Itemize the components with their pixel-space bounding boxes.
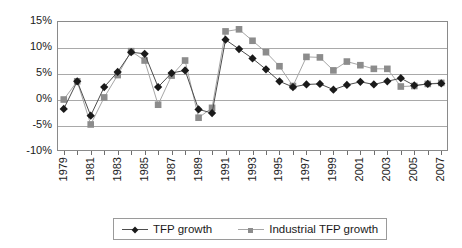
x-axis-tick [91, 151, 92, 155]
data-point [221, 36, 229, 44]
data-point [330, 67, 337, 74]
x-axis-ticks [57, 151, 448, 156]
x-axis-tick [414, 151, 415, 155]
x-axis-tick [172, 151, 173, 155]
y-axis-tick-label: 15% [0, 15, 52, 26]
x-axis-tick [118, 151, 119, 155]
square-icon [238, 224, 264, 235]
x-axis-tick [347, 151, 348, 155]
x-axis-tick-label: 1989 [193, 157, 204, 181]
x-axis-tick-label: 1987 [166, 157, 177, 181]
data-point [60, 105, 68, 113]
data-point [302, 80, 310, 88]
y-axis-tick-label: 10% [0, 41, 52, 52]
diamond-icon [122, 224, 148, 235]
data-point [249, 37, 256, 44]
data-point [182, 57, 189, 64]
x-axis-tick-label: 2003 [381, 157, 392, 181]
x-axis-tick [253, 151, 254, 155]
x-axis-tick-label: 1995 [273, 157, 284, 181]
data-point [155, 101, 162, 108]
data-point [195, 114, 202, 121]
x-axis-tick [199, 151, 200, 155]
chart-container: 15%10%5%0%-5%-10% 1979198119831985198719… [0, 0, 462, 248]
data-point [222, 28, 229, 35]
data-point [329, 86, 337, 94]
data-point [87, 121, 94, 128]
x-axis-tick [64, 151, 65, 155]
data-point [101, 94, 108, 101]
data-point [371, 66, 378, 73]
x-axis-tick-label: 1993 [247, 157, 258, 181]
data-point [316, 80, 324, 88]
data-point [384, 66, 391, 73]
data-point [141, 50, 149, 58]
x-axis-tick-label: 1985 [139, 157, 150, 181]
series-industrial-tfp-growth [60, 26, 444, 128]
x-axis-tick [145, 151, 146, 155]
data-point [263, 49, 270, 56]
legend-label: TFP growth [153, 223, 212, 235]
x-axis-tick [158, 151, 159, 155]
x-axis-tick [239, 151, 240, 155]
x-axis-tick-label: 1983 [112, 157, 123, 181]
legend-label: Industrial TFP growth [269, 223, 378, 235]
x-axis-tick [185, 151, 186, 155]
data-point [235, 45, 243, 53]
data-point [344, 58, 351, 65]
x-axis-tick [401, 151, 402, 155]
x-axis-tick [293, 151, 294, 155]
legend-entry[interactable]: Industrial TFP growth [238, 223, 378, 235]
x-axis-tick-label: 1991 [220, 157, 231, 181]
x-axis-tick-label: 1979 [58, 157, 69, 181]
y-axis-tick-label: -5% [0, 119, 52, 130]
x-axis-tick [320, 151, 321, 155]
x-axis-tick [306, 151, 307, 155]
data-point [276, 63, 283, 70]
x-axis-tick [387, 151, 388, 155]
data-point [383, 77, 391, 85]
data-point [60, 96, 67, 103]
x-axis-tick [441, 151, 442, 155]
y-axis: 15%10%5%0%-5%-10% [0, 0, 52, 248]
x-axis-tick [279, 151, 280, 155]
x-axis-tick [77, 151, 78, 155]
x-axis-tick [266, 151, 267, 155]
x-axis-tick [428, 151, 429, 155]
x-axis-tick [226, 151, 227, 155]
data-point [397, 74, 405, 82]
legend-entry[interactable]: TFP growth [122, 223, 212, 235]
y-axis-tick-label: -10% [0, 145, 52, 156]
x-axis-tick-label: 1999 [327, 157, 338, 181]
series-layer [57, 21, 448, 151]
x-axis-tick [360, 151, 361, 155]
data-point [317, 54, 324, 61]
x-axis-tick [374, 151, 375, 155]
data-point [303, 54, 310, 61]
x-axis-tick [212, 151, 213, 155]
x-axis-labels: 1979198119831985198719891991199319951997… [57, 157, 448, 207]
y-axis-tick-label: 5% [0, 67, 52, 78]
x-axis-tick-label: 1981 [85, 157, 96, 181]
x-axis-tick-label: 2001 [354, 157, 365, 181]
data-point [236, 26, 243, 33]
y-axis-tick-label: 0% [0, 93, 52, 104]
x-axis-tick-label: 2005 [408, 157, 419, 181]
x-axis-tick [333, 151, 334, 155]
data-point [357, 62, 364, 69]
data-point [398, 83, 405, 90]
data-point [370, 80, 378, 88]
x-axis-tick [104, 151, 105, 155]
x-axis-tick-label: 1997 [300, 157, 311, 181]
chart-legend: TFP growthIndustrial TFP growth [113, 218, 387, 240]
data-point [343, 81, 351, 89]
x-axis-tick-label: 2007 [435, 157, 446, 181]
data-point [356, 78, 364, 86]
x-axis-tick [131, 151, 132, 155]
